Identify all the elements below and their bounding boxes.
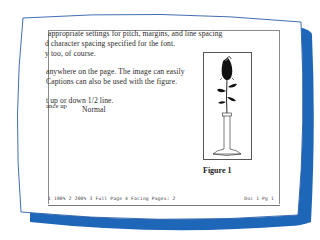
document-text-line: d character spacing specified for the fo… (45, 40, 175, 48)
rose-in-vase-image (204, 53, 251, 159)
document-text-line: Normal (82, 106, 106, 114)
document-text-line: ance up (46, 102, 67, 110)
status-bar: 1 100% 2 200% 3 Full Page 4 Facing Pages… (48, 196, 280, 206)
document-text-line: Captions can also be used with the figur… (46, 78, 177, 86)
view-options[interactable]: 1 100% 2 200% 3 Full Page 4 Facing Pages… (48, 196, 176, 201)
document-text-line: anywhere on the page. The image can easi… (46, 68, 185, 76)
figure-caption: Figure 1 (203, 166, 232, 175)
document-position: Doc 1 Pg 1 (244, 196, 274, 201)
figure-frame[interactable] (203, 52, 252, 160)
document-text-line: y too, of course. (45, 50, 96, 58)
document-text-line: appropriate settings for pitch, margins,… (48, 30, 222, 38)
